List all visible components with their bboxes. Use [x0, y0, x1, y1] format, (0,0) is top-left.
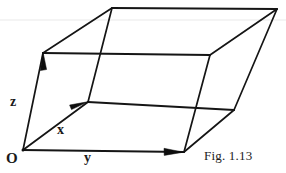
edge-front-bottom-right-to-back-bottom-right	[184, 110, 234, 152]
edge-front-top-right-to-front-bottom-right	[184, 55, 210, 152]
axis-label-y: y	[84, 151, 91, 165]
edge-front-top-left-to-origin	[23, 53, 43, 150]
y-axis-arrowhead-icon	[164, 148, 184, 155]
edge-back-top-left-to-back-top-right	[112, 8, 277, 9]
figure-caption: Fig. 1.13	[204, 148, 252, 164]
edge-origin-to-back-bottom-left-x-axis	[23, 102, 88, 150]
edge-origin-to-front-bottom-right-y-axis	[23, 150, 184, 152]
origin-label: O	[6, 151, 18, 166]
axis-label-z: z	[10, 95, 16, 109]
edge-front-top-right-to-front-top-left	[43, 53, 210, 55]
figure-container: z x O y Fig. 1.13	[0, 0, 286, 173]
axis-label-x: x	[57, 123, 64, 137]
edge-back-bottom-left-to-back-bottom-right	[88, 102, 234, 110]
origin-point-marker	[22, 149, 25, 152]
